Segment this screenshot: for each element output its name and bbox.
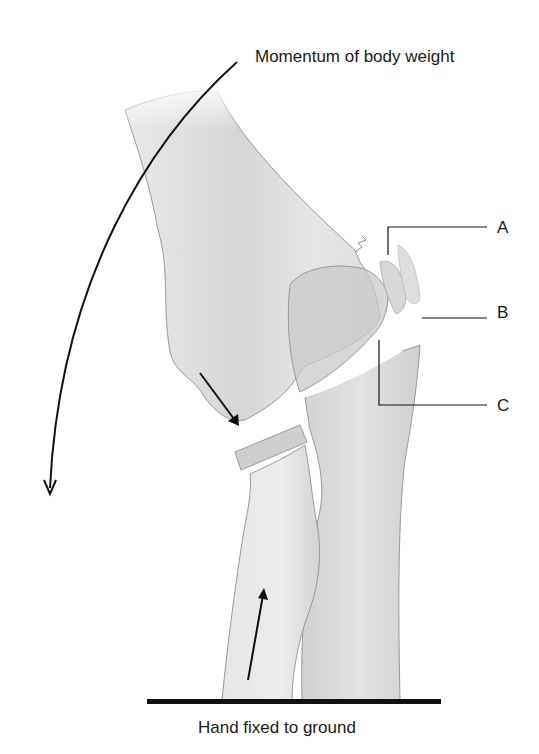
humerus-bone [110,80,380,421]
callout-label-a: A [497,218,508,238]
ground-line [147,699,441,704]
momentum-label: Momentum of body weight [255,47,454,67]
callout-label-c: C [497,396,509,416]
ulna-bone [302,345,420,700]
ground-label: Hand fixed to ground [198,718,356,738]
elbow-injury-diagram [0,0,539,754]
callout-label-b: B [497,303,508,323]
